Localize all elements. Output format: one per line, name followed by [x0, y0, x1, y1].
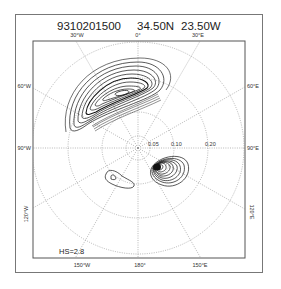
label-150e: 150°E	[192, 262, 207, 268]
label-90w: 90°W	[17, 145, 31, 151]
label-30w: 30°W	[70, 32, 84, 38]
secondary-peak-contours	[150, 156, 188, 186]
label-30e: 30°E	[192, 32, 204, 38]
label-150w: 150°W	[74, 262, 91, 268]
ring-label-010: 0.10	[171, 141, 182, 147]
label-0: 0°	[135, 32, 140, 38]
primary-swell-contours	[65, 58, 170, 132]
label-120e: 120°E	[249, 204, 255, 219]
polar-plot: 30°W 0° 30°E 60°W 90°W 120°W 60°E 90°E 1…	[0, 0, 281, 289]
label-120w: 120°W	[23, 205, 29, 222]
ring-label-005: 0.05	[148, 141, 159, 147]
label-180: 180°	[134, 262, 145, 268]
hs-annotation: HS=2.8	[59, 247, 84, 256]
minor-peak-contours	[105, 170, 134, 188]
label-90e: 90°E	[247, 145, 259, 151]
ring-label-020: 0.20	[205, 141, 216, 147]
label-60w: 60°W	[17, 83, 31, 89]
label-60e: 60°E	[247, 83, 259, 89]
secondary-peak-core	[153, 164, 161, 171]
